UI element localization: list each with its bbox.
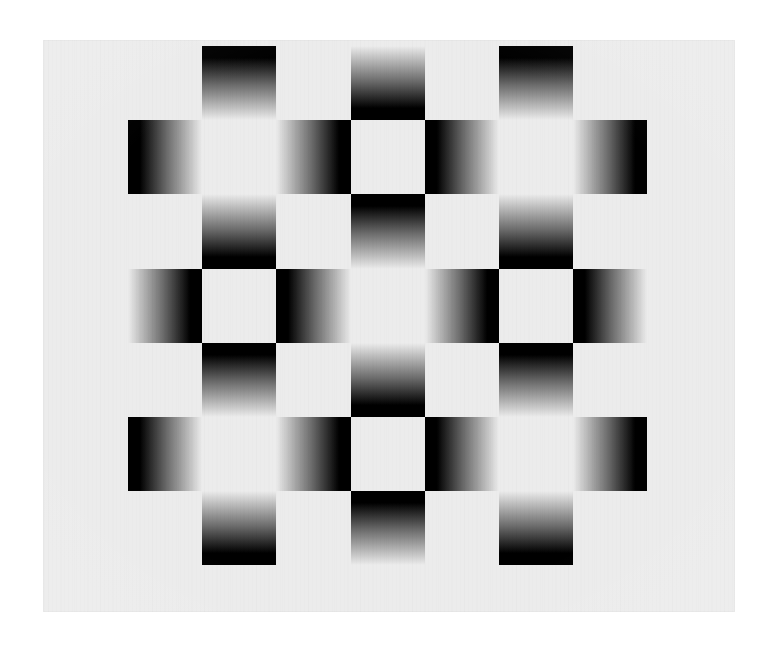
gradient-cell — [202, 46, 276, 120]
gradient-cell — [351, 343, 425, 417]
gradient-cell — [425, 269, 499, 343]
gradient-cell — [425, 417, 499, 491]
gradient-cell — [499, 46, 573, 120]
gradient-cell — [128, 120, 202, 194]
artwork-stage — [0, 0, 775, 646]
gradient-cell — [573, 417, 647, 491]
gradient-cell — [351, 194, 425, 268]
gradient-cell — [276, 417, 350, 491]
gradient-cell — [128, 269, 202, 343]
gradient-cell — [276, 269, 350, 343]
gradient-cell — [202, 343, 276, 417]
gradient-cell — [351, 491, 425, 565]
gradient-cell — [573, 269, 647, 343]
artwork-canvas — [43, 40, 735, 612]
gradient-cell — [499, 194, 573, 268]
gradient-cell — [499, 491, 573, 565]
gradient-cell — [573, 120, 647, 194]
gradient-cell — [276, 120, 350, 194]
gradient-cell — [202, 194, 276, 268]
gradient-cell — [499, 343, 573, 417]
gradient-cell — [351, 46, 425, 120]
gradient-cell — [425, 120, 499, 194]
gradient-cell — [202, 491, 276, 565]
gradient-cell — [128, 417, 202, 491]
